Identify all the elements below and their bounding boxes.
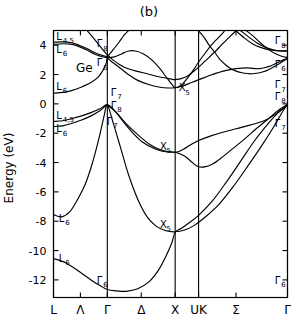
band-label: Γ7	[107, 116, 118, 130]
y-axis-title: Energy (eV)	[2, 133, 16, 204]
band-label-main: L	[59, 253, 65, 264]
band-curve	[54, 105, 288, 232]
band-label-subscript: 7	[281, 124, 285, 132]
band-label: L4,5	[56, 31, 74, 45]
band-label-subscript: 6	[281, 281, 286, 289]
band-label-subscript: 5	[166, 147, 170, 155]
panel-title: (b)	[140, 4, 158, 19]
band-label-subscript: 5	[166, 225, 170, 233]
y-tick-label: -10	[29, 245, 47, 258]
band-label-subscript: 6	[281, 65, 286, 73]
band-label-main: Γ	[97, 38, 103, 49]
band-structure-figure: (b) Energy (eV) Ge 420-2-4-6-8-10-12 L4,…	[0, 0, 299, 328]
band-label-main: Γ	[275, 91, 281, 102]
band-label: Γ8	[275, 35, 286, 49]
band-curve	[54, 105, 288, 168]
x-axis-label: Σ	[232, 303, 240, 317]
x-axis-label: UK	[190, 303, 208, 317]
band-label: X5	[160, 141, 171, 155]
y-tick-label: 4	[40, 39, 47, 52]
band-label-main: L	[56, 44, 62, 55]
band-label-subscript: 6	[103, 64, 108, 72]
y-tick-label: -4	[36, 157, 47, 170]
band-label-main: Γ	[275, 275, 281, 286]
band-label-main: Γ	[275, 35, 281, 46]
band-label-subscript: 8	[281, 42, 285, 50]
band-label-main: Γ	[111, 100, 117, 111]
material-label: Ge	[76, 61, 93, 75]
x-axis-label: X	[171, 303, 179, 317]
band-label: L6	[59, 213, 71, 227]
y-tick-label: -12	[29, 274, 47, 287]
band-label-main: L	[56, 110, 62, 121]
band-label: L6	[56, 44, 68, 58]
band-curve	[87, 31, 236, 80]
band-label-subscript: 6	[63, 50, 68, 58]
band-label-main: L	[56, 81, 62, 92]
x-axis-labels: LΛΓΔXUKΣΓ	[50, 303, 291, 317]
x-axis-label: Δ	[137, 303, 146, 317]
band-label: L6	[59, 253, 71, 267]
band-label-subscript: 7	[117, 93, 121, 101]
band-label-subscript: 4,5	[63, 37, 74, 45]
band-label-main: L	[56, 31, 62, 42]
x-axis-label: Γ	[284, 303, 291, 317]
band-label-main: Γ	[275, 118, 281, 129]
band-label-subscript: 8	[281, 97, 285, 105]
band-curve	[54, 105, 288, 152]
band-label-main: Γ	[97, 57, 103, 68]
band-label-main: Γ	[275, 79, 281, 90]
band-label-main: Γ	[275, 59, 281, 70]
y-tick-label: 2	[40, 69, 47, 82]
band-label-main: Γ	[107, 116, 113, 127]
band-label-main: L	[56, 123, 62, 134]
band-label: Γ8	[97, 38, 108, 52]
band-label-subscript: 5	[185, 89, 189, 97]
y-tick-label: -2	[36, 127, 47, 140]
x-axis-label: Λ	[76, 303, 85, 317]
band-label: Γ7	[111, 87, 122, 101]
band-label-main: Γ	[111, 87, 117, 98]
band-label-subscript: 4,5	[63, 116, 74, 124]
band-label-subscript: 6	[103, 281, 108, 289]
band-label-subscript: 7	[281, 86, 285, 94]
y-tick-label: -8	[36, 215, 47, 228]
y-tick-label: -6	[36, 186, 47, 199]
band-label-subscript: 6	[63, 130, 68, 138]
band-label: Γ7	[275, 118, 286, 132]
band-label-subscript: 8	[103, 45, 107, 53]
x-axis-label: L	[50, 303, 57, 317]
band-label-main: L	[59, 213, 65, 224]
band-label: Γ6	[275, 275, 287, 289]
band-label: L4,5	[56, 110, 74, 124]
x-axis-label: Γ	[104, 303, 111, 317]
band-label-subscript: 7	[113, 122, 117, 130]
y-tick-label: 0	[40, 98, 47, 111]
band-label-subscript: 8	[117, 106, 121, 114]
band-label: Γ6	[97, 275, 109, 289]
band-label-subscript: 6	[65, 219, 70, 227]
band-structure-svg: (b) Energy (eV) Ge 420-2-4-6-8-10-12 L4,…	[0, 0, 299, 328]
band-label-subscript: 6	[65, 259, 70, 267]
band-label-subscript: 6	[63, 87, 68, 95]
band-label-main: Γ	[97, 275, 103, 286]
